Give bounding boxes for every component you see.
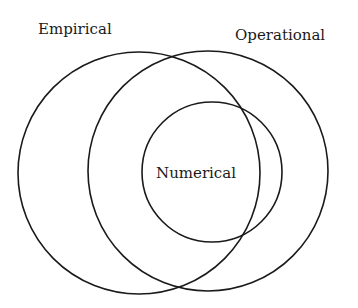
numerical-label: Numerical (156, 164, 236, 182)
operational-label: Operational (235, 26, 325, 44)
venn-diagram: Empirical Operational Numerical (0, 0, 358, 308)
empirical-label: Empirical (38, 20, 112, 38)
